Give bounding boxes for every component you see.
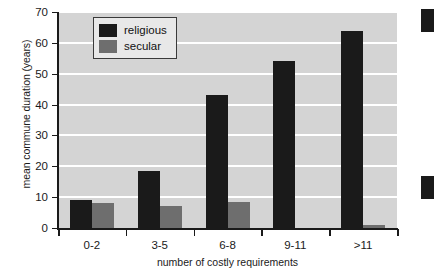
legend-swatch-secular — [99, 40, 117, 53]
bar-secular-6-8 — [228, 202, 250, 228]
x-tick-label-0-2: 0-2 — [57, 239, 127, 251]
legend-swatch-fragment-top — [421, 9, 434, 32]
x-tick-mark — [397, 229, 399, 236]
x-tick-mark — [58, 229, 60, 236]
x-tick-label-3-5: 3-5 — [125, 239, 195, 251]
x-tick-mark — [329, 229, 331, 236]
x-axis-line — [57, 228, 398, 230]
gridline — [58, 11, 397, 13]
bar-religious-6-8 — [206, 95, 228, 228]
y-tick-label: 20 — [20, 160, 48, 172]
legend-label-secular: secular — [124, 40, 161, 52]
legend-swatch-religious — [99, 24, 117, 37]
bar-religious-0-2 — [70, 200, 92, 228]
x-tick-mark — [194, 229, 196, 236]
y-tick-label: 0 — [20, 222, 48, 234]
legend-item-secular: secular — [99, 38, 167, 54]
x-tick-mark — [261, 229, 263, 236]
bar-chart-figure: mean commune duration (years) 0102030405… — [0, 0, 434, 278]
bar-religious-3-5 — [138, 171, 160, 228]
y-tick-label: 30 — [20, 129, 48, 141]
bar-religious-9-11 — [273, 61, 295, 228]
chart-legend: religious secular — [93, 17, 177, 59]
y-tick-label: 60 — [20, 37, 48, 49]
y-axis-line — [57, 12, 59, 229]
bar-secular-0-2 — [92, 203, 114, 228]
x-tick-label-6-8: 6-8 — [193, 239, 263, 251]
x-tick-label-9-11: 9-11 — [260, 239, 330, 251]
x-tick-label->11: >11 — [328, 239, 398, 251]
x-tick-mark — [126, 229, 128, 236]
y-axis-tick-labels: 010203040506070 — [14, 0, 48, 278]
y-tick-label: 70 — [20, 6, 48, 18]
y-tick-label: 10 — [20, 191, 48, 203]
x-axis-title: number of costly requirements — [58, 256, 397, 268]
legend-swatch-fragment-bottom — [421, 176, 434, 199]
legend-item-religious: religious — [99, 22, 167, 38]
y-tick-label: 40 — [20, 99, 48, 111]
y-tick-label: 50 — [20, 68, 48, 80]
bar-religious->11 — [341, 31, 363, 228]
bar-secular-3-5 — [160, 206, 182, 228]
legend-label-religious: religious — [124, 24, 167, 36]
